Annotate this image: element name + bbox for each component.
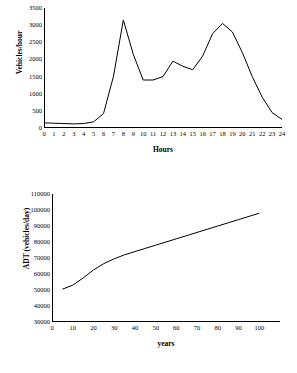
figure-page: Vehicles/hour 05001000150020002500300035… <box>0 0 297 373</box>
top-chart-x-tick-label: 7 <box>112 130 115 138</box>
top-chart-x-tick-label: 5 <box>92 130 95 138</box>
bottom-chart-plot-area <box>52 194 280 322</box>
top-chart-x-tick-label: 13 <box>170 130 177 138</box>
bottom-chart-x-tick-label: 40 <box>132 324 139 332</box>
bottom-chart-svg <box>52 194 280 322</box>
top-chart-svg <box>44 8 282 128</box>
top-chart-x-tick-label: 1 <box>52 130 55 138</box>
top-chart-x-tick-label: 4 <box>82 130 85 138</box>
top-chart-y-tick-label: 2500 <box>29 39 42 46</box>
bottom-chart-x-tick-label: 10 <box>69 324 76 332</box>
top-chart-x-tick-label: 22 <box>259 130 266 138</box>
top-chart-y-tick-label: 1000 <box>29 90 42 97</box>
bottom-chart-y-tick-label: 80000 <box>34 239 50 246</box>
bottom-chart-x-tick-label: 30 <box>111 324 118 332</box>
top-chart-plot-area <box>44 8 282 128</box>
bottom-chart-y-tick-label: 40000 <box>34 303 50 310</box>
bottom-chart-y-axis-ticks: 3000040000500006000070000800009000010000… <box>4 194 50 322</box>
bottom-chart-y-tick-label: 50000 <box>34 287 50 294</box>
bottom-chart-x-tick-label: 60 <box>173 324 180 332</box>
top-chart-x-tick-label: 23 <box>269 130 276 138</box>
top-chart-y-tick-label: 2000 <box>29 56 42 63</box>
bottom-chart-x-tick-label: 100 <box>254 324 264 332</box>
top-chart-x-axis-title: Hours <box>44 145 282 154</box>
top-chart-x-tick-label: 2 <box>62 130 65 138</box>
top-chart-tick-marks <box>44 8 282 128</box>
bottom-chart-x-tick-label: 90 <box>235 324 242 332</box>
chart-adt-growth: ADT (vehicles/day) 300004000050000600007… <box>0 186 297 373</box>
top-chart-y-tick-label: 3000 <box>29 22 42 29</box>
top-chart-x-tick-label: 24 <box>279 130 286 138</box>
bottom-chart-y-tick-label: 100000 <box>31 207 51 214</box>
top-chart-x-tick-label: 6 <box>102 130 105 138</box>
top-chart-x-tick-label: 12 <box>160 130 167 138</box>
bottom-chart-x-axis-title: years <box>52 339 280 348</box>
top-chart-x-axis-ticks: 0123456789101112131415161718192021222324 <box>44 130 282 142</box>
bottom-chart-x-tick-label: 0 <box>50 324 53 332</box>
top-chart-x-tick-label: 14 <box>180 130 187 138</box>
top-chart-x-tick-label: 8 <box>122 130 125 138</box>
bottom-chart-y-tick-label: 90000 <box>34 223 50 230</box>
bottom-chart-y-tick-label: 30000 <box>34 319 50 326</box>
bottom-chart-y-tick-label: 70000 <box>34 255 50 262</box>
top-chart-x-tick-label: 11 <box>150 130 156 138</box>
bottom-chart-tick-marks <box>52 194 259 322</box>
top-chart-x-tick-label: 9 <box>132 130 135 138</box>
top-chart-x-tick-label: 19 <box>229 130 236 138</box>
top-chart-y-tick-label: 500 <box>32 108 42 115</box>
top-chart-y-tick-label: 3500 <box>29 5 42 12</box>
top-chart-x-tick-label: 16 <box>199 130 206 138</box>
top-chart-series-line <box>44 20 282 124</box>
bottom-chart-x-tick-label: 70 <box>194 324 201 332</box>
top-chart-x-tick-label: 0 <box>42 130 45 138</box>
bottom-chart-x-axis-ticks: 0102030405060708090100 <box>52 324 280 336</box>
top-chart-x-tick-label: 21 <box>249 130 256 138</box>
bottom-chart-y-tick-label: 110000 <box>31 191 50 198</box>
bottom-chart-series-line <box>62 213 259 289</box>
top-chart-x-tick-label: 10 <box>140 130 147 138</box>
bottom-chart-y-tick-label: 60000 <box>34 271 50 278</box>
top-chart-x-tick-label: 15 <box>190 130 197 138</box>
top-chart-y-axis-ticks: 0500100015002000250030003500 <box>6 8 42 128</box>
top-chart-y-tick-label: 1500 <box>29 73 42 80</box>
top-chart-x-tick-label: 18 <box>219 130 226 138</box>
bottom-chart-x-tick-label: 50 <box>152 324 159 332</box>
top-chart-x-tick-label: 20 <box>239 130 246 138</box>
bottom-chart-x-tick-label: 20 <box>90 324 97 332</box>
bottom-chart-x-tick-label: 80 <box>215 324 222 332</box>
top-chart-x-tick-label: 3 <box>72 130 75 138</box>
chart-hourly-traffic-profile: Vehicles/hour 05001000150020002500300035… <box>0 0 297 178</box>
top-chart-x-tick-label: 17 <box>209 130 216 138</box>
